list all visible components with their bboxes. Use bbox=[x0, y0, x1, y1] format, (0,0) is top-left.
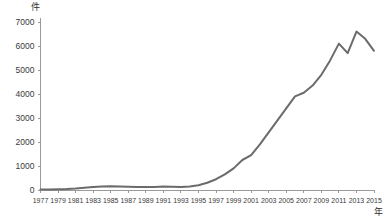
y-tick-label: 5000 bbox=[16, 65, 35, 75]
x-tick-label: 2001 bbox=[243, 197, 259, 204]
y-tick-label: 7000 bbox=[16, 17, 35, 27]
line-chart: 件 年 01000200030004000500060007000 197719… bbox=[0, 0, 389, 222]
x-tick-label: 1995 bbox=[191, 197, 207, 204]
y-tick-label: 6000 bbox=[16, 41, 35, 51]
y-tick-label: 2000 bbox=[16, 137, 35, 147]
x-tick-label: 2003 bbox=[261, 197, 277, 204]
y-axis-ticks: 01000200030004000500060007000 bbox=[16, 17, 41, 195]
x-tick-label: 1999 bbox=[226, 197, 242, 204]
x-tick-label: 1987 bbox=[120, 197, 136, 204]
x-tick-label: 1977 bbox=[33, 197, 49, 204]
y-tick-label: 0 bbox=[30, 185, 35, 195]
plot-area: 01000200030004000500060007000 1977197919… bbox=[0, 0, 389, 222]
x-tick-label: 1997 bbox=[208, 197, 224, 204]
x-tick-label: 2009 bbox=[314, 197, 330, 204]
x-tick-label: 1985 bbox=[103, 197, 119, 204]
y-tick-label: 3000 bbox=[16, 113, 35, 123]
x-tick-label: 2013 bbox=[349, 197, 365, 204]
x-tick-label: 1991 bbox=[156, 197, 172, 204]
x-tick-label: 2005 bbox=[278, 197, 294, 204]
x-tick-label: 2015 bbox=[366, 197, 382, 204]
x-tick-label: 2011 bbox=[331, 197, 346, 204]
x-tick-label: 1989 bbox=[138, 197, 154, 204]
y-tick-label: 1000 bbox=[16, 161, 35, 171]
data-series-line bbox=[41, 32, 375, 190]
x-tick-label: 1981 bbox=[68, 197, 84, 204]
x-tick-label: 1979 bbox=[50, 197, 66, 204]
x-tick-label: 1983 bbox=[85, 197, 101, 204]
y-tick-label: 4000 bbox=[16, 89, 35, 99]
x-tick-label: 2007 bbox=[296, 197, 312, 204]
x-axis-ticks: 1977197919811983198519871989199119931995… bbox=[33, 190, 382, 204]
x-tick-label: 1993 bbox=[173, 197, 189, 204]
